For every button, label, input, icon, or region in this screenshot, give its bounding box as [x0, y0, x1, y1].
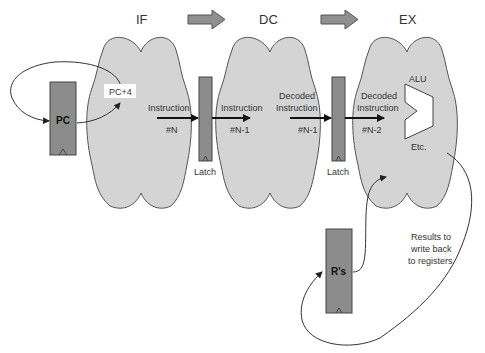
if-stage-cloud [87, 37, 192, 208]
stage-title-if: IF [136, 12, 148, 27]
pipeline-diagram: IF DC EX PC PC+4 Latch Latch Instruction… [0, 0, 485, 353]
results-label-3: to registers [408, 256, 453, 266]
if-num-label: #N [166, 125, 178, 135]
stage-arrow-if-dc [188, 10, 225, 29]
stage-title-ex: EX [399, 12, 417, 27]
registers-label: R's [331, 266, 347, 277]
results-label-2: write back [410, 244, 452, 254]
alu-label: ALU [409, 74, 427, 84]
ex-decoded-label-2: Instruction [357, 103, 399, 113]
dc-decoded-label-2: Instruction [276, 103, 318, 113]
dc-instruction-label: Instruction [221, 103, 263, 113]
latch-dc-ex: Latch [327, 77, 349, 177]
if-instruction-label: Instruction [148, 103, 190, 113]
pc-label: PC [56, 115, 70, 126]
dc-decoded-label-1: Decoded [279, 91, 315, 101]
dc-decoded-num-label: #N-1 [298, 125, 318, 135]
ex-decoded-label-1: Decoded [361, 91, 397, 101]
latch-label: Latch [194, 167, 216, 177]
stage-arrow-dc-ex [321, 10, 358, 29]
etc-label: Etc. [411, 142, 427, 152]
pc-plus-4-label: PC+4 [109, 87, 132, 97]
pc-register: PC [50, 82, 76, 155]
ex-num-label: #N-2 [362, 125, 382, 135]
results-label-1: Results to [411, 232, 451, 242]
dc-stage-cloud [216, 37, 321, 208]
registers-block: R's [326, 229, 352, 313]
latch-if-dc: Latch [194, 77, 216, 177]
stage-title-dc: DC [259, 12, 278, 27]
latch-label: Latch [327, 167, 349, 177]
dc-num-label: #N-1 [230, 125, 250, 135]
